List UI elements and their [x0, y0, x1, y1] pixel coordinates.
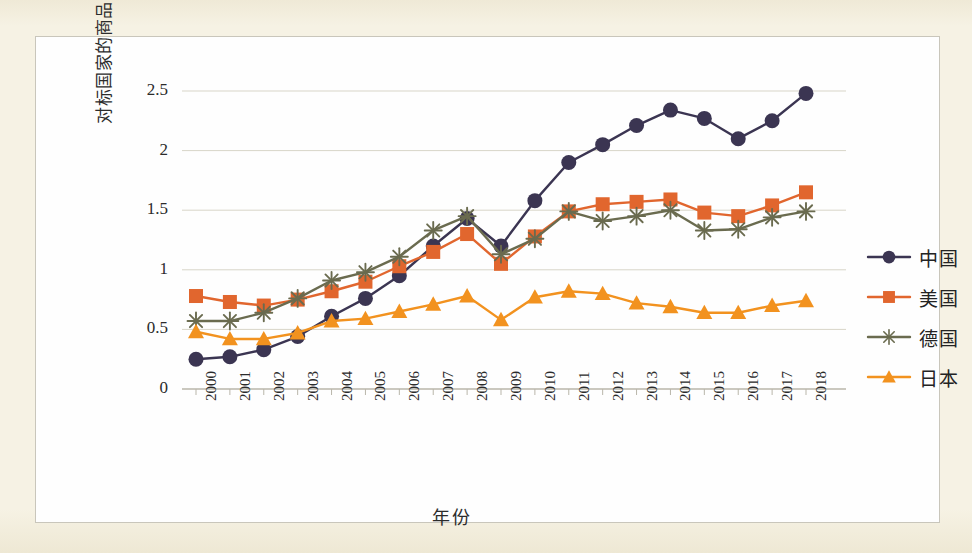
triangle-marker — [866, 368, 912, 386]
legend-item-label: 德国 — [919, 324, 959, 351]
y-axis-title: 对标国家的商品贸易出口额/万亿美元 — [90, 0, 115, 131]
x-tick-label: 2001 — [237, 371, 254, 401]
x-tick-label: 2010 — [542, 371, 559, 401]
y-tick-label: 0.5 — [124, 318, 168, 338]
series-4 — [188, 283, 814, 345]
y-tick-label: 0 — [124, 378, 168, 398]
y-axis-title-text: 对标国家的商品贸易出口额/万亿美元 — [90, 0, 115, 131]
x-tick-label: 2014 — [677, 371, 694, 401]
x-tick-label: 2016 — [745, 371, 762, 401]
x-tick-label: 2013 — [644, 371, 661, 401]
legend-item-label: 美国 — [919, 284, 959, 311]
x-tick-label: 2005 — [372, 371, 389, 401]
legend-item-中国[interactable]: 中国 — [866, 237, 972, 277]
x-tick-label: 2011 — [576, 372, 593, 401]
x-axis-title: 年份 — [432, 503, 472, 529]
square-marker — [866, 288, 912, 306]
x-tick-label: 2015 — [711, 371, 728, 401]
line-chart-canvas — [36, 37, 939, 522]
x-tick-label: 2000 — [203, 371, 220, 401]
legend-item-德国[interactable]: 德国 — [866, 317, 972, 357]
x-tick-label: 2004 — [339, 371, 356, 401]
x-tick-label: 2009 — [508, 371, 525, 401]
y-tick-label: 2 — [124, 140, 168, 160]
legend-item-美国[interactable]: 美国 — [866, 277, 972, 317]
x-tick-label: 2008 — [474, 371, 491, 401]
y-tick-label: 1 — [124, 259, 168, 279]
chart-panel: 对标国家的商品贸易出口额/万亿美元 年份 中国美国德国日本 00.511.522… — [35, 36, 940, 523]
y-tick-label: 1.5 — [124, 199, 168, 219]
y-tick-label: 2.5 — [124, 80, 168, 100]
x-tick-label: 2018 — [813, 371, 830, 401]
legend-item-label: 日本 — [919, 364, 959, 391]
legend-item-label: 中国 — [919, 244, 959, 271]
x-tick-label: 2002 — [271, 371, 288, 401]
x-tick-label: 2017 — [779, 371, 796, 401]
x-tick-label: 2007 — [440, 371, 457, 401]
x-tick-label: 2003 — [305, 371, 322, 401]
chart-legend: 中国美国德国日本 — [866, 237, 972, 397]
legend-item-日本[interactable]: 日本 — [866, 357, 972, 397]
asterisk-marker — [866, 328, 912, 346]
circle-marker — [866, 248, 912, 266]
screenshot-root: 对标国家的商品贸易出口额/万亿美元 年份 中国美国德国日本 00.511.522… — [0, 0, 972, 553]
x-tick-label: 2006 — [406, 371, 423, 401]
x-tick-label: 2012 — [610, 371, 627, 401]
